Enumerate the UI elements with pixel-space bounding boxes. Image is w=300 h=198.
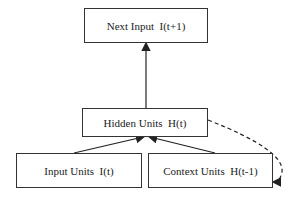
hidden-units-label: Hidden Units H(t) bbox=[104, 117, 187, 129]
next-input-label: Next Input I(t+1) bbox=[107, 20, 186, 32]
hidden-units-node: Hidden Units H(t) bbox=[82, 108, 208, 137]
edge-context-to-hidden bbox=[150, 137, 215, 153]
input-units-label: Input Units I(t) bbox=[44, 165, 113, 177]
context-units-node: Context Units H(t-1) bbox=[148, 153, 273, 188]
context-units-label: Context Units H(t-1) bbox=[163, 165, 257, 177]
input-units-node: Input Units I(t) bbox=[16, 153, 142, 188]
edge-input-to-hidden bbox=[74, 137, 143, 153]
next-input-node: Next Input I(t+1) bbox=[84, 8, 208, 43]
